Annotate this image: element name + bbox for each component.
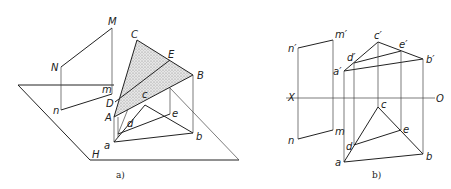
label-c-prime: c′ [374, 30, 382, 41]
caption-a: a) [116, 170, 125, 180]
label-b-prime: b′ [426, 54, 435, 65]
label-e: e [172, 108, 178, 119]
label-b: b [426, 151, 432, 162]
label-N: N [51, 62, 59, 73]
label-D: D [106, 98, 114, 109]
label-n: n [288, 135, 294, 146]
label-m: m [335, 126, 345, 137]
projection-diagram: M N m n C E B D A c d e a b H a) [0, 0, 451, 189]
label-H: H [92, 149, 100, 160]
label-B: B [197, 70, 204, 81]
label-d: d [346, 141, 353, 152]
label-c: c [381, 99, 387, 110]
figure-b: X O n′ m′ n m c′ d′ e′ b′ a′ c d e b a b… [286, 29, 444, 180]
label-a: a [335, 157, 341, 168]
triangle-front-view [344, 42, 423, 71]
label-X: X [287, 92, 296, 103]
line-mn-projections [298, 40, 333, 139]
label-e-prime: e′ [399, 39, 408, 50]
triangle-abc-shaded [114, 40, 193, 117]
label-n: n [53, 105, 59, 116]
label-m: m [102, 84, 112, 95]
label-A: A [104, 112, 112, 123]
label-a: a [104, 140, 110, 151]
label-n-prime: n′ [288, 43, 297, 54]
label-d: d [127, 118, 134, 129]
label-b: b [196, 131, 202, 142]
triangle-top-view [344, 107, 423, 162]
label-d-prime: d′ [347, 52, 356, 63]
label-M: M [108, 16, 117, 27]
caption-b: b) [372, 170, 381, 180]
label-m-prime: m′ [335, 29, 348, 40]
label-C: C [131, 29, 138, 40]
label-c: c [142, 89, 148, 100]
figure-a: M N m n C E B D A c d e a b H a) [18, 16, 239, 180]
label-E: E [168, 49, 175, 60]
label-O: O [436, 93, 444, 104]
label-a-prime: a′ [333, 66, 342, 77]
line-mn [61, 28, 112, 110]
label-e: e [403, 124, 409, 135]
